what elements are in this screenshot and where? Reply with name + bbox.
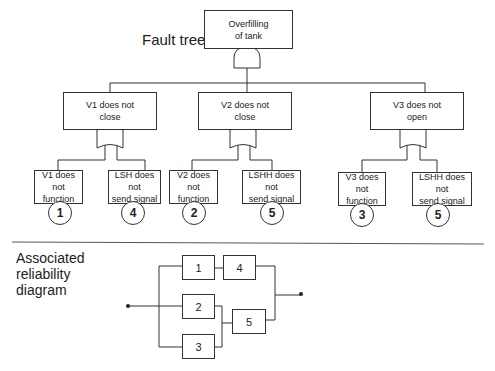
basic-event-lshh-signal-a: LSHH does not send signal	[242, 170, 301, 204]
event-number-circle: 4	[121, 201, 145, 225]
fault-tree-title: Fault tree	[142, 32, 205, 48]
intermediate-event-v2: V2 does not close	[198, 92, 292, 130]
reliability-diagram-title: Associated reliability diagram	[16, 250, 84, 298]
event-number-circle: 5	[260, 201, 284, 225]
basic-event-v1-function: V1 does not function	[34, 170, 83, 204]
rbd-input-node	[126, 304, 130, 308]
basic-event-v2-function: V2 does not function	[169, 170, 218, 204]
basic-event-lshh-signal-b: LSHH does not send signal	[412, 172, 472, 206]
or-gate-icon	[97, 128, 123, 149]
intermediate-event-v3: V3 does not open	[370, 92, 464, 130]
rbd-block-4: 4	[223, 255, 256, 280]
and-gate-icon	[234, 47, 260, 68]
event-number-circle: 2	[182, 201, 206, 225]
basic-event-lsh-signal: LSH does not send signal	[108, 170, 161, 204]
event-number-circle: 5	[426, 203, 450, 227]
basic-event-v3-function: V3 does not function	[338, 172, 386, 206]
event-number-circle: 1	[48, 201, 72, 225]
intermediate-event-v1: V1 does not close	[63, 92, 157, 130]
or-gate-icon	[230, 128, 256, 149]
event-number-circle: 3	[350, 203, 374, 227]
rbd-block-2: 2	[182, 294, 215, 319]
rbd-block-1: 1	[182, 255, 215, 280]
rbd-output-node	[299, 292, 303, 296]
rbd-block-3: 3	[182, 334, 215, 359]
rbd-block-5: 5	[232, 309, 266, 334]
top-event-box: Overfilling of tank	[204, 10, 293, 49]
